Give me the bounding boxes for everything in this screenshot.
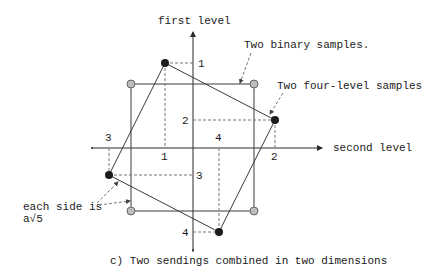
first-tick-4: 4 [182,227,189,239]
first-level-label: first level [158,15,231,27]
four-level-samples-annotation: Two four-level samples [277,80,422,92]
constellation-diagram: 1 2 3 4 1 2 3 4 first level second level… [0,0,430,272]
four-level-point-4 [215,228,223,236]
four-level-annotation-arrow [270,93,283,114]
four-level-point-1 [161,59,169,67]
binary-samples-annotation: Two binary samples. [244,39,369,51]
side-length-annotation-line1: each side is [23,201,102,213]
second-tick-2: 2 [271,151,278,163]
second-level-label: second level [333,142,412,154]
second-tick-1: 1 [161,151,168,163]
four-level-point-2 [271,116,279,124]
side-arrow-1 [97,182,118,203]
first-tick-2: 2 [182,115,189,127]
figure-caption: c) Two sendings combined in two dimensio… [110,255,387,267]
second-axis-left-tick [91,147,93,149]
side-arrow-2 [99,201,130,205]
binary-annotation-arrow [240,53,251,83]
binary-point-bl [127,207,135,215]
binary-point-tr [250,80,258,88]
first-tick-3: 3 [196,170,203,182]
binary-point-br [250,207,258,215]
side-length-annotation-line2: a√5 [23,213,43,225]
second-tick-3: 3 [105,132,112,144]
first-tick-1: 1 [198,58,205,70]
binary-point-tl [127,80,135,88]
first-axis-bottom-tick [192,249,194,251]
second-tick-4: 4 [215,132,222,144]
four-level-point-3 [105,171,113,179]
